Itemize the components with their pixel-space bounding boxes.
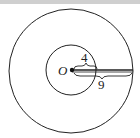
outer-radius-label: 9 bbox=[98, 77, 105, 92]
inner-radius-label: 4 bbox=[81, 50, 88, 65]
center-point-o bbox=[70, 68, 74, 72]
center-label-o: O bbox=[58, 63, 68, 78]
concentric-circles-diagram: O 4 9 bbox=[0, 0, 140, 138]
